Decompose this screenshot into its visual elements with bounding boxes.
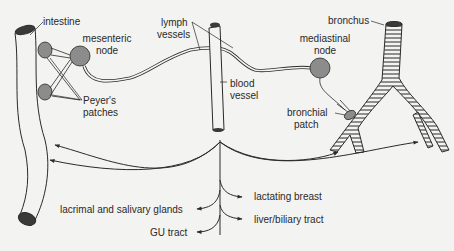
label-peyers-line1: Peyer's (83, 95, 116, 106)
label-intestine: intestine (43, 16, 80, 27)
label-lymph-line2: vessels (157, 29, 190, 40)
label-lymph-line1: lymph (161, 17, 188, 28)
label-mesenteric-node-line2: node (77, 45, 137, 56)
label-mesenteric-node-line1: mesenteric (77, 33, 137, 44)
label-blood-line2: vessel (230, 90, 258, 101)
label-bronchial-line2: patch (294, 119, 318, 130)
label-gu-tract: GU tract (150, 227, 187, 238)
label-mediastinal-line2: node (290, 45, 360, 56)
blood-vessel-icon (209, 23, 224, 133)
label-bronchial-line1: bronchial (287, 107, 328, 118)
label-lactating-breast: lactating breast (254, 191, 322, 202)
circulation-arrows (50, 140, 418, 235)
label-blood-line1: blood (230, 78, 254, 89)
label-mediastinal-line1: mediastinal (290, 33, 360, 44)
label-lacrimal-salivary: lacrimal and salivary glands (60, 204, 183, 215)
mucosal-immune-diagram: intestine mesenteric node Peyer's patche… (0, 0, 454, 251)
label-liver-biliary: liver/biliary tract (254, 214, 323, 225)
label-bronchus: bronchus (328, 15, 369, 26)
label-peyers-line2: patches (83, 107, 118, 118)
